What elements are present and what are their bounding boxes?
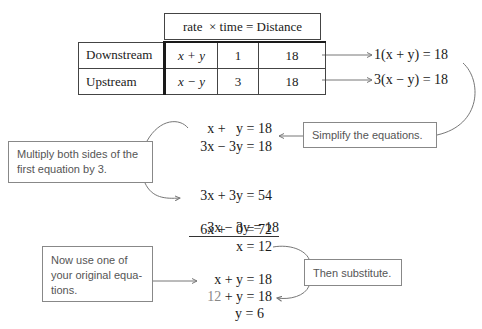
- callout-substitute-text: Then substitute.: [313, 267, 391, 279]
- distance-cell: 18: [259, 69, 326, 95]
- rate-cell: x − y: [165, 69, 218, 95]
- solution-x: x = 12: [152, 239, 272, 255]
- derived-equation-1: 1(x + y) = 18: [374, 47, 448, 63]
- row-label: Downstream: [79, 42, 165, 69]
- callout-multiply-text: Multiply both sides of the first equatio…: [17, 148, 138, 175]
- time-cell: 3: [218, 69, 259, 95]
- time-cell: 1: [218, 42, 259, 69]
- callout-substitute: Then substitute.: [304, 259, 402, 286]
- callout-now-use: Now use one of your original equa- tions…: [42, 246, 153, 302]
- callout-simplify: Simplify the equations.: [303, 122, 437, 148]
- derived-equation-2: 3(x − y) = 18: [374, 72, 448, 88]
- header-label: rate × time = Distance: [183, 19, 302, 35]
- elimination-line-1: 3x + 3y = 54: [152, 188, 272, 204]
- distance-cell: 18: [259, 42, 326, 69]
- curve-substitute-top: [273, 246, 309, 259]
- callout-simplify-text: Simplify the equations.: [312, 129, 423, 141]
- callout-multiply: Multiply both sides of the first equatio…: [8, 141, 153, 183]
- simplified-equation-1: x + y = 18: [152, 121, 272, 137]
- rate-cell: x + y: [165, 42, 218, 69]
- substituted-value: 12: [207, 289, 221, 304]
- elimination-sum: 6x + 0 = 72: [152, 222, 272, 238]
- callout-now-use-text: Now use one of your original equa- tions…: [51, 254, 142, 296]
- arrow-substitute-bottom: [277, 286, 309, 299]
- substitution-line-1: x + y = 18: [152, 272, 272, 288]
- table-row: Upstream x − y 3 18: [79, 69, 326, 95]
- substitution-line-2-rest: + y = 18: [221, 289, 272, 304]
- substitution-line-2: 12 + y = 18: [152, 289, 272, 305]
- table-header: rate × time = Distance: [164, 13, 321, 40]
- simplified-equation-2: 3x − 3y = 18: [152, 139, 272, 155]
- solution-y: y = 6: [144, 306, 264, 322]
- rate-time-distance-table: Downstream x + y 1 18 Upstream x − y 3 1…: [78, 41, 326, 95]
- table-row: Downstream x + y 1 18: [79, 42, 326, 69]
- row-label: Upstream: [79, 69, 165, 95]
